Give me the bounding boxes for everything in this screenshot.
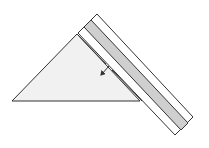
fold-diagram [0,0,209,148]
diagram-canvas [0,0,209,148]
